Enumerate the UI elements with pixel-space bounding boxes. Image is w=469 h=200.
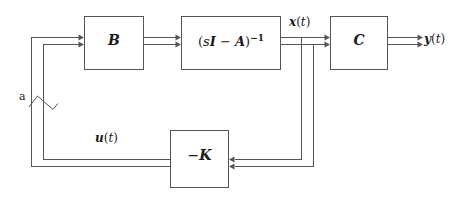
signal-label-state: x(t) (289, 16, 310, 28)
arrowhead-output-lower (418, 42, 424, 48)
block-label-b: B (84, 33, 144, 47)
bus-width-label: a (19, 91, 26, 102)
block-label-c: C (330, 33, 388, 47)
block-diagram-canvas: B (sI − A)−1 C −K x(t) y(t) u(t) a (0, 0, 469, 200)
plant-label-minus: − (216, 34, 235, 49)
diagram-vector-layer (0, 0, 469, 200)
input-label-paren-close: ) (113, 131, 118, 145)
block-label-plant: (sI − A)−1 (181, 34, 281, 48)
plant-label-a: A (235, 34, 245, 49)
plant-label-s: s (203, 34, 210, 49)
signal-label-input: u(t) (95, 132, 118, 144)
plant-label-exponent: −1 (250, 33, 264, 43)
k-label-minus: − (188, 147, 200, 163)
output-label-paren-close: ) (441, 32, 446, 46)
arrowhead-into-k-lower (229, 164, 235, 170)
input-label-vector: u (95, 131, 104, 145)
output-label-vector: y (424, 32, 431, 46)
state-label-paren-close: ) (306, 15, 311, 29)
block-label-k: −K (170, 148, 229, 162)
arrowhead-output-upper (418, 35, 424, 41)
arrowhead-into-k-upper (229, 157, 235, 163)
signal-label-output: y(t) (424, 33, 445, 45)
k-label-k: K (199, 147, 211, 163)
